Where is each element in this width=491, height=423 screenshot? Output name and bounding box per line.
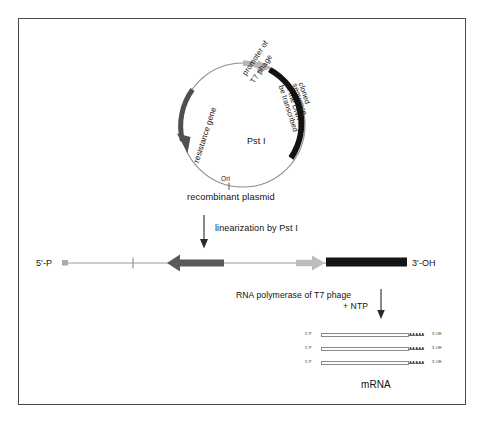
ori-label: Ori [221,175,230,182]
plasmid-circle-group [177,61,305,191]
linear-resistance-gene-head [167,255,180,272]
mrna-poly-a-tail: AAAAA [409,346,424,351]
linearization-enzyme-italic: Pst [279,223,292,233]
pst-i-plain: I [260,136,265,146]
mrna-five-prime-label: 5'-P [305,332,311,336]
mrna-strand: 5'-P AAAAA 3'-OH [305,358,455,367]
linear-resistance-gene-body [180,260,224,267]
plasmid-caption: recombinant plasmid [187,192,275,202]
mrna-strand-body [321,333,409,338]
resistance-gene-arc [181,90,193,142]
mrna-three-prime-label: 3'-OH [432,346,441,350]
rna-polymerase-plain: of T7 phage [302,290,351,300]
mrna-strand-group: 5'-P AAAAA 3'-OH 5'-P AAAAA 3'-OH 5'-P A… [305,330,455,372]
mrna-poly-a-tail: AAAAA [409,332,424,337]
mrna-five-prime-label: 5'-P [305,346,311,350]
pst-i-site-label: Pst I [247,136,266,146]
linear-cloned-sequence-bar [326,258,407,267]
transcription-step-line2: + NTP [343,301,368,311]
mrna-three-prime-label: 3'-OH [432,360,441,364]
transcription-arrow-head [377,310,385,319]
linear-dna-three-prime-label: 3'-OH [412,258,436,268]
rna-polymerase-italic: RNA polymerase [236,290,302,300]
mrna-three-prime-label: 3'-OH [432,332,441,336]
linearization-text-after: I [293,223,298,233]
mrna-strand: 5'-P AAAAA 3'-OH [305,344,455,353]
transcription-arrow-group [377,289,385,319]
mrna-five-prime-label: 5'-P [305,360,311,364]
mrna-poly-a-tail: AAAAA [409,360,424,365]
mrna-caption: mRNA [361,379,391,390]
linearization-step-label: linearization by Pst I [215,223,298,233]
mrna-strand: 5'-P AAAAA 3'-OH [305,330,455,339]
linear-promoter-body [296,260,312,266]
linearization-arrow-head [200,239,208,249]
linear-promoter-head [312,256,325,271]
five-prime-cap [62,260,68,266]
pst-i-italic: Pst [247,136,260,146]
linear-dna-group [62,255,407,272]
linearization-text-before: linearization by [215,223,279,233]
linear-dna-five-prime-label: 5'-P [36,258,52,268]
resistance-gene-arrowhead [177,134,191,154]
mrna-strand-body [321,347,409,352]
transcription-step-line1: RNA polymerase of T7 phage [236,290,351,300]
mrna-strand-body [321,361,409,366]
linearization-arrow-group [200,215,208,249]
